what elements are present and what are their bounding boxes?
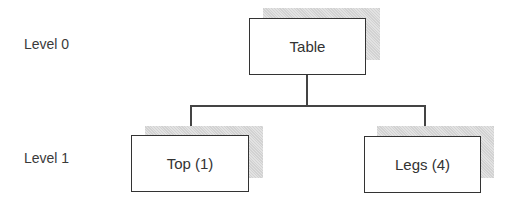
root-node-label: Table	[290, 38, 326, 55]
top-node-label: Top (1)	[167, 155, 214, 172]
legs-node: Legs (4)	[364, 136, 481, 193]
top-node: Top (1)	[131, 135, 249, 192]
root-connector	[306, 75, 308, 106]
legs-node-label: Legs (4)	[395, 156, 450, 173]
level-1-label: Level 1	[24, 150, 69, 166]
sibling-bar	[190, 105, 425, 107]
root-node: Table	[249, 18, 366, 75]
level-0-label: Level 0	[24, 36, 69, 52]
